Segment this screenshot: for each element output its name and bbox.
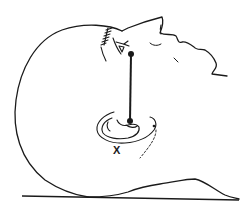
eye (113, 38, 129, 54)
face-profile (122, 17, 227, 76)
head-profile-diagram (0, 0, 249, 211)
eye-landmark-dot (128, 51, 134, 57)
head-outline (15, 25, 122, 197)
ear-landmark-dot (127, 118, 133, 124)
cheek-crease (150, 43, 161, 45)
ear (97, 112, 156, 143)
shoulder-outline (88, 179, 239, 199)
surface-line (22, 196, 239, 200)
mouth-corner (174, 58, 178, 62)
eyebrow (101, 28, 112, 61)
marker-x-label: X (113, 145, 120, 156)
canthus-tragus-line (130, 54, 131, 121)
jaw-line (140, 130, 156, 158)
